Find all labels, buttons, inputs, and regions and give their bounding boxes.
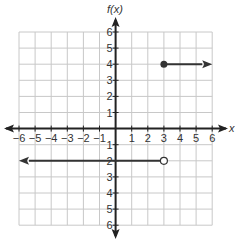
x-tick-label: 3	[161, 132, 167, 144]
x-tick-label: −4	[45, 132, 58, 144]
y-tick-label: 5	[106, 42, 112, 54]
x-tick-label: 1	[129, 132, 135, 144]
open-endpoint-circle	[160, 157, 167, 164]
y-tick-label: 5	[106, 203, 112, 215]
x-tick-label: 6	[209, 132, 215, 144]
x-tick-label: 5	[193, 132, 199, 144]
y-tick-label: 2	[106, 90, 112, 102]
x-tick-label: −1	[93, 132, 106, 144]
x-axis-label: x	[228, 122, 235, 134]
y-tick-label: 4	[106, 58, 112, 70]
y-tick-label: 1	[106, 107, 112, 119]
y-tick-label: 6	[106, 26, 112, 38]
piecewise-graph: −6−5−4−3−2−1123456654321123456 f(x) x	[0, 0, 235, 240]
x-tick-label: 4	[177, 132, 183, 144]
y-tick-label: 3	[106, 74, 112, 86]
y-axis-label: f(x)	[107, 3, 123, 15]
x-tick-label: −3	[61, 132, 74, 144]
x-tick-label: −2	[77, 132, 90, 144]
y-tick-label: 6	[106, 219, 112, 231]
y-tick-label: 4	[106, 187, 112, 199]
x-tick-label: −5	[29, 132, 42, 144]
x-tick-label: −6	[13, 132, 26, 144]
x-tick-label: 2	[145, 132, 151, 144]
y-tick-label: 3	[106, 171, 112, 183]
axes	[4, 17, 228, 239]
y-tick-label: 1	[106, 139, 112, 151]
closed-endpoint-dot	[160, 61, 167, 68]
